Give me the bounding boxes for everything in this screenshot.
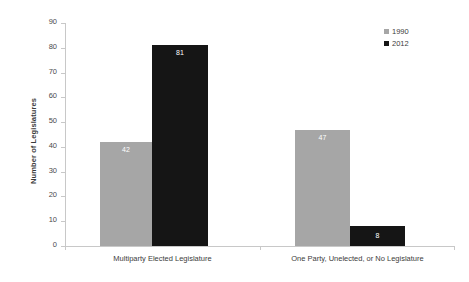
- legend-label: 1990: [392, 27, 409, 36]
- y-tick-label-90: 90: [49, 17, 57, 26]
- bar-1990-multiparty[interactable]: 42: [100, 142, 152, 246]
- bar-1990-onepartyunelected[interactable]: 47: [295, 130, 350, 247]
- bar-value-label: 81: [152, 49, 208, 56]
- x-tick-middle: [260, 246, 261, 250]
- y-tick-label-50: 50: [49, 116, 57, 125]
- y-tick-label-40: 40: [49, 141, 57, 150]
- y-tick-label-20: 20: [49, 190, 57, 199]
- legend-swatch-icon: [384, 41, 389, 46]
- x-category-label-oneparty: One Party, Unelected, or No Legislature: [260, 254, 455, 263]
- x-tick-start: [65, 246, 66, 250]
- legend-swatch-icon: [384, 29, 389, 34]
- y-tick-20: 20: [61, 196, 65, 197]
- y-tick-40: 40: [61, 147, 65, 148]
- bar-2012-multiparty[interactable]: 81: [152, 45, 208, 246]
- legend-label: 2012: [392, 39, 409, 48]
- bar-value-label: 42: [100, 146, 152, 153]
- y-axis-title: Number of Legislatures: [24, 0, 42, 282]
- plot-area: 90 80 70 60 50 40 30 20 10 0 42 81 47 8: [65, 23, 455, 246]
- y-axis-line: [65, 23, 66, 246]
- bar-2012-onepartyunelected[interactable]: 8: [350, 226, 405, 246]
- y-tick-label-30: 30: [49, 166, 57, 175]
- y-tick-label-60: 60: [49, 91, 57, 100]
- y-tick-80: 80: [61, 48, 65, 49]
- legend-item-2012[interactable]: 2012: [384, 39, 409, 48]
- legend: 1990 2012: [384, 27, 409, 48]
- y-tick-label-70: 70: [49, 67, 57, 76]
- y-tick-label-80: 80: [49, 42, 57, 51]
- legend-item-1990[interactable]: 1990: [384, 27, 409, 36]
- y-tick-10: 10: [61, 221, 65, 222]
- y-tick-90: 90: [61, 23, 65, 24]
- y-tick-60: 60: [61, 97, 65, 98]
- y-tick-30: 30: [61, 172, 65, 173]
- x-category-label-multiparty: Multiparty Elected Legislature: [65, 254, 260, 263]
- x-tick-end: [454, 246, 455, 250]
- bar-chart: Number of Legislatures 90 80 70 60 50 40…: [0, 0, 469, 282]
- bar-value-label: 8: [350, 232, 405, 239]
- y-tick-70: 70: [61, 73, 65, 74]
- y-tick-label-10: 10: [49, 215, 57, 224]
- bar-value-label: 47: [295, 134, 350, 141]
- y-tick-50: 50: [61, 122, 65, 123]
- y-tick-label-0: 0: [53, 240, 57, 249]
